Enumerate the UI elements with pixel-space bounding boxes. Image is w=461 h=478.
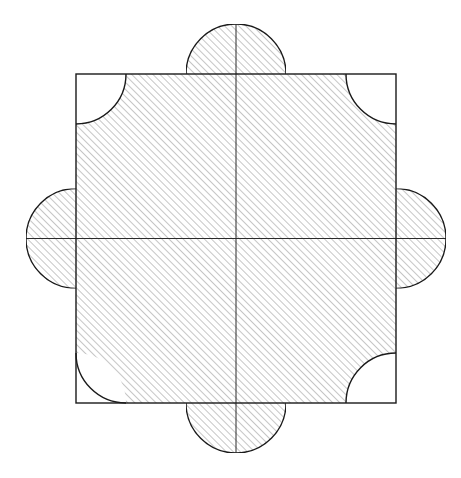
geometry-figure-svg: A square outline with four hatched semic… [0, 0, 461, 478]
figure-canvas: A square outline with four hatched semic… [0, 0, 461, 478]
